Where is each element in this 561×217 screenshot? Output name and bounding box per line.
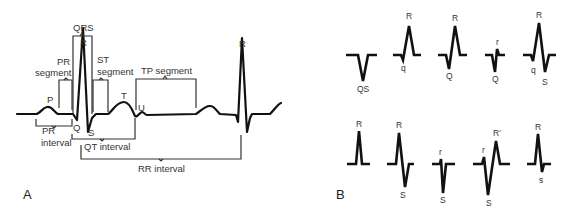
panel-a-label: A xyxy=(23,187,32,202)
pr-segment-label-1: PR xyxy=(57,56,70,67)
qrs-pattern-Qr: r Q xyxy=(485,37,505,84)
svg-text:R: R xyxy=(452,13,458,23)
panel-b-label: B xyxy=(336,187,345,202)
st-segment-bracket xyxy=(93,80,108,112)
svg-text:Q: Q xyxy=(446,71,453,81)
st-segment-label-1: ST xyxy=(97,54,109,65)
pr-segment-label-2: segment xyxy=(35,67,72,78)
svg-text:q: q xyxy=(401,63,406,73)
qt-interval-bracket xyxy=(72,118,135,139)
qrs-pattern-Rs: R s xyxy=(527,122,551,185)
r-wave-label: R xyxy=(80,37,87,48)
p-wave-label: P xyxy=(47,94,53,105)
qt-interval-label: QT interval xyxy=(84,141,130,152)
qrs-label: QRS xyxy=(73,22,94,33)
svg-text:R: R xyxy=(356,119,362,129)
svg-text:Q: Q xyxy=(492,74,499,84)
qrs-pattern-qr: R q xyxy=(393,11,421,73)
svg-text:S: S xyxy=(440,195,446,205)
svg-text:S: S xyxy=(486,198,492,208)
r-wave-2-label: R xyxy=(239,38,246,49)
tp-segment-bracket xyxy=(136,79,196,110)
svg-text:R: R xyxy=(536,10,542,20)
pr-interval-label-1: PR xyxy=(42,125,55,136)
qrs-label-qs: QS xyxy=(357,84,370,94)
svg-text:r: r xyxy=(482,145,485,155)
svg-text:R′: R′ xyxy=(493,128,501,138)
qrs-pattern-R: R xyxy=(347,119,370,164)
rr-interval-label: RR interval xyxy=(138,163,185,174)
s-wave-label: S xyxy=(88,127,94,138)
svg-text:r: r xyxy=(439,147,442,157)
qrs-pattern-qRS: R q S xyxy=(523,10,556,87)
pr-interval-label-2: interval xyxy=(41,137,72,148)
qrs-pattern-QR: R Q xyxy=(438,13,467,81)
panel-a: P Q R S T U R QRS PR segment ST segment … xyxy=(17,22,281,202)
svg-text:R: R xyxy=(396,120,402,130)
st-segment-label-2: segment xyxy=(97,66,134,77)
panel-b: QS R q R Q r Q R q S R R xyxy=(336,10,556,208)
qrs-pattern-rSR: r R′ S xyxy=(473,128,510,208)
svg-text:S: S xyxy=(400,190,406,200)
qrs-pattern-rS: r S xyxy=(432,147,455,205)
qrs-pattern-RS: R S xyxy=(387,120,414,200)
svg-text:q: q xyxy=(531,65,536,75)
ecg-figure: P Q R S T U R QRS PR segment ST segment … xyxy=(0,0,561,217)
svg-text:s: s xyxy=(539,175,543,185)
qrs-pattern-qs: QS xyxy=(346,55,377,94)
u-wave-label: U xyxy=(138,102,145,113)
svg-text:S: S xyxy=(542,77,548,87)
pr-segment-bracket xyxy=(59,80,72,110)
q-wave-label: Q xyxy=(73,122,80,133)
svg-text:R: R xyxy=(406,11,412,21)
svg-text:r: r xyxy=(496,37,499,47)
t-wave-label: T xyxy=(121,90,127,101)
svg-text:R: R xyxy=(535,122,541,132)
tp-segment-label: TP segment xyxy=(141,65,192,76)
